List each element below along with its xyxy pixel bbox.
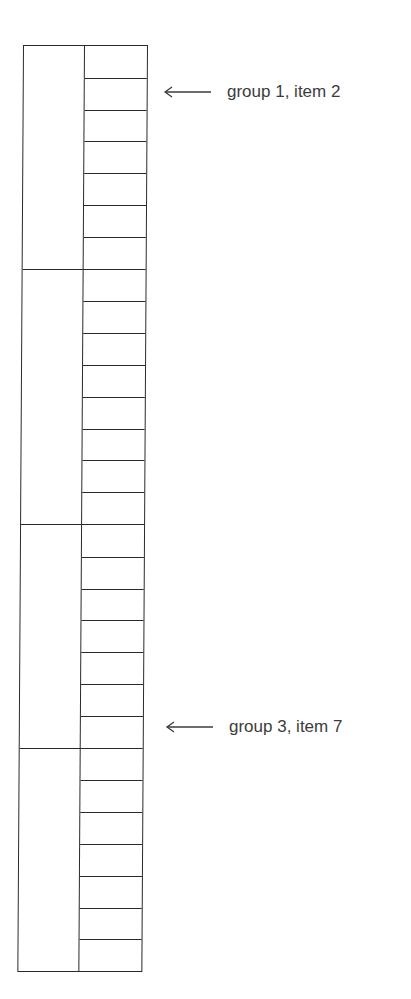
item-cell bbox=[80, 908, 142, 940]
group-cell bbox=[18, 749, 80, 972]
item-cell bbox=[85, 78, 147, 110]
item-cell bbox=[83, 397, 145, 429]
group-2 bbox=[21, 269, 146, 524]
left-arrow-icon bbox=[163, 85, 213, 99]
annotation-label: group 1, item 2 bbox=[227, 82, 340, 102]
item-cell bbox=[84, 237, 146, 269]
item-cell bbox=[81, 749, 143, 781]
item-column bbox=[81, 525, 144, 748]
item-cell bbox=[82, 557, 144, 589]
grouped-stack-diagram: group 1, item 2 group 3, item 7 bbox=[0, 0, 411, 999]
group-3 bbox=[20, 524, 144, 748]
item-cell bbox=[83, 365, 145, 397]
item-column bbox=[79, 749, 142, 972]
item-cell bbox=[81, 620, 143, 652]
item-cell bbox=[84, 141, 146, 173]
item-cell bbox=[84, 173, 146, 205]
item-cell bbox=[81, 716, 143, 748]
item-cell bbox=[82, 525, 144, 557]
annotation-group1-item2: group 1, item 2 bbox=[163, 82, 340, 102]
item-cell bbox=[82, 460, 144, 492]
annotation-label: group 3, item 7 bbox=[229, 717, 342, 737]
item-cell bbox=[81, 589, 143, 621]
item-cell bbox=[80, 876, 142, 908]
item-cell bbox=[80, 844, 142, 876]
item-cell bbox=[84, 205, 146, 237]
group-cell bbox=[23, 46, 85, 269]
group-1 bbox=[23, 46, 147, 269]
item-cell bbox=[85, 46, 147, 78]
item-cell bbox=[80, 812, 142, 844]
item-column bbox=[82, 270, 146, 524]
item-column bbox=[84, 46, 147, 269]
item-cell bbox=[82, 492, 144, 524]
group-cell bbox=[20, 525, 82, 748]
item-cell bbox=[81, 684, 143, 716]
item-cell bbox=[81, 652, 143, 684]
item-cell bbox=[82, 429, 144, 461]
item-cell bbox=[83, 333, 145, 365]
group-cell bbox=[21, 270, 84, 524]
annotation-group3-item7: group 3, item 7 bbox=[165, 717, 342, 737]
item-cell bbox=[80, 780, 142, 812]
item-cell bbox=[79, 939, 141, 971]
stack-container bbox=[17, 45, 148, 972]
item-cell bbox=[83, 270, 145, 302]
item-cell bbox=[83, 301, 145, 333]
item-cell bbox=[84, 110, 146, 142]
group-4 bbox=[18, 748, 142, 972]
left-arrow-icon bbox=[165, 720, 215, 734]
